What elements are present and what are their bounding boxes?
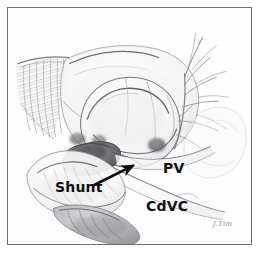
label-cdvc: CdVC	[146, 199, 188, 213]
label-shunt: Shunt	[55, 180, 103, 194]
figure-root: Shunt PV CdVC J.Tim	[0, 0, 261, 260]
gastric-ostium-shadow	[148, 138, 166, 152]
illustration-canvas	[8, 8, 251, 244]
artist-signature: J.Tim	[213, 220, 233, 228]
label-pv: PV	[163, 161, 185, 175]
illustration-frame: Shunt PV CdVC J.Tim	[7, 7, 252, 245]
